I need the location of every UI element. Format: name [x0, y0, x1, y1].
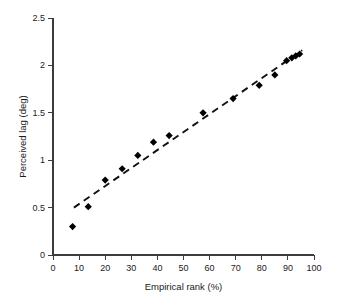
- x-tick-label-2: 20: [100, 263, 110, 273]
- y-axis-ticks: [48, 18, 53, 255]
- trend-line: [74, 50, 302, 207]
- data-point: [150, 139, 157, 146]
- y-tick-label-5: 2.5: [32, 13, 45, 23]
- data-points-group: [69, 50, 303, 230]
- x-tick-label-6: 60: [205, 263, 215, 273]
- y-tick-label-4: 2: [40, 60, 45, 70]
- x-axis-ticks: [53, 255, 314, 260]
- data-point: [199, 109, 206, 116]
- x-tick-label-7: 70: [231, 263, 241, 273]
- data-point: [134, 152, 141, 159]
- x-tick-label-0: 0: [50, 263, 55, 273]
- data-point: [69, 223, 76, 230]
- y-tick-label-3: 1.5: [32, 108, 45, 118]
- y-tick-label-0: 0: [40, 250, 45, 260]
- chart-figure: 0 0.5 1 1.5 2 2.5 0 10 20 30 40 50 60 70…: [0, 0, 344, 300]
- axis-lines: [53, 18, 314, 255]
- data-point: [85, 203, 92, 210]
- y-tick-label-2: 1: [40, 155, 45, 165]
- y-tick-labels: 0 0.5 1 1.5 2 2.5: [32, 13, 45, 260]
- x-tick-label-9: 90: [283, 263, 293, 273]
- data-point: [119, 165, 126, 172]
- x-tick-label-5: 50: [178, 263, 188, 273]
- scatter-plot: 0 0.5 1 1.5 2 2.5 0 10 20 30 40 50 60 70…: [0, 0, 344, 300]
- x-tick-label-8: 80: [257, 263, 267, 273]
- data-point: [271, 71, 278, 78]
- x-tick-label-4: 40: [152, 263, 162, 273]
- x-tick-label-3: 30: [126, 263, 136, 273]
- y-tick-label-1: 0.5: [32, 203, 45, 213]
- y-axis-title: Perceived lag (deg): [17, 95, 28, 177]
- data-point: [166, 132, 173, 139]
- x-tick-label-1: 10: [74, 263, 84, 273]
- x-tick-label-10: 100: [306, 263, 321, 273]
- data-point: [102, 177, 109, 184]
- x-tick-labels: 0 10 20 30 40 50 60 70 80 90 100: [50, 263, 321, 273]
- x-axis-title: Empirical rank (%): [145, 281, 223, 292]
